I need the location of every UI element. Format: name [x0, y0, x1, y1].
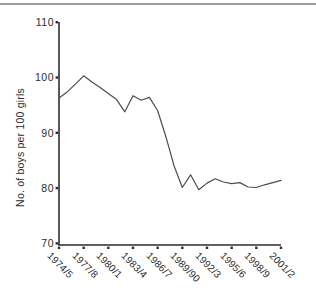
y-tick-label: 110	[22, 16, 54, 28]
y-tick-label: 90	[22, 127, 54, 139]
y-tick-label: 70	[22, 237, 54, 249]
y-axis-title: No. of boys per 100 girls	[14, 60, 27, 236]
y-tick-label: 80	[22, 182, 54, 194]
line-plot	[0, 0, 316, 294]
figure: No. of boys per 100 girls 110 100 90 80 …	[0, 0, 316, 294]
y-tick-label: 100	[22, 71, 54, 83]
